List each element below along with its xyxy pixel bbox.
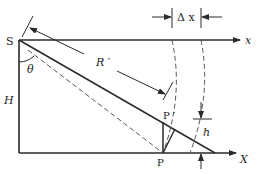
range-tick-right — [163, 82, 173, 100]
range-arrow-line — [30, 28, 84, 54]
label-x-top: x — [245, 34, 252, 47]
label-r-prime: R ′ — [95, 56, 111, 69]
range-arrow-line-2 — [117, 71, 165, 94]
geometry-diagram: S θ R ′ H P P ′ h X x Δ x — [0, 0, 258, 174]
label-h: h — [203, 126, 210, 139]
label-h-height: H — [3, 94, 14, 107]
label-s: S — [6, 35, 14, 48]
label-x-ground: X — [239, 153, 249, 166]
label-delta-x: Δ x — [177, 11, 195, 24]
p-perpendicular — [163, 129, 175, 153]
theta-arc — [19, 56, 34, 62]
slant-range-line — [19, 40, 215, 153]
label-p-prime: P ′ — [163, 110, 176, 121]
range-tick-left — [22, 16, 33, 37]
label-theta: θ — [27, 63, 34, 76]
label-p: P — [157, 157, 164, 168]
